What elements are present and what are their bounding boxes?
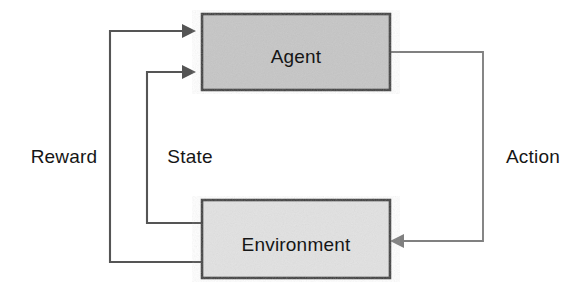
reward-label: Reward (31, 146, 98, 167)
diagram-canvas: Agent Environment Reward State Action (0, 0, 578, 294)
state-label: State (167, 146, 212, 167)
action-label: Action (506, 146, 560, 167)
reward-arrowhead (182, 24, 196, 38)
rl-loop-diagram: Agent Environment Reward State Action (0, 0, 578, 294)
agent-node: Agent (202, 14, 390, 90)
reward-edge (110, 24, 202, 262)
environment-node: Environment (202, 200, 390, 278)
state-edge (147, 65, 202, 223)
agent-label: Agent (271, 46, 322, 67)
action-arrowhead (390, 234, 404, 248)
environment-label: Environment (242, 234, 351, 255)
action-edge (390, 52, 483, 248)
state-arrowhead (182, 65, 196, 79)
action-edge-line (390, 52, 483, 241)
